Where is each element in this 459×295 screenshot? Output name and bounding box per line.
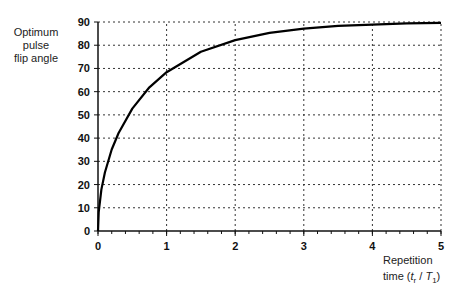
y-tick-label: 10 (78, 202, 90, 214)
x-label-line1: Repetition (383, 252, 440, 268)
y-tick-label: 40 (78, 132, 90, 144)
x-axis-label: Repetition time (tr / T1) (383, 252, 440, 289)
x-tick-label: 5 (438, 240, 444, 252)
y-tick-label: 0 (84, 225, 90, 237)
chart: 0102030405060708090012345 (0, 0, 459, 295)
data-curve (98, 23, 441, 231)
x-tick-label: 4 (369, 240, 376, 252)
y-tick-label: 50 (78, 109, 90, 121)
x-tick-label: 1 (164, 240, 170, 252)
y-tick-label: 90 (78, 16, 90, 28)
x-label-line2: time (tr / T1) (383, 268, 440, 289)
x-tick-label: 0 (95, 240, 101, 252)
y-tick-label: 30 (78, 155, 90, 167)
x-tick-label: 3 (301, 240, 307, 252)
y-tick-label: 80 (78, 39, 90, 51)
y-tick-label: 70 (78, 62, 90, 74)
y-tick-label: 20 (78, 179, 90, 191)
y-tick-label: 60 (78, 86, 90, 98)
x-tick-label: 2 (232, 240, 238, 252)
